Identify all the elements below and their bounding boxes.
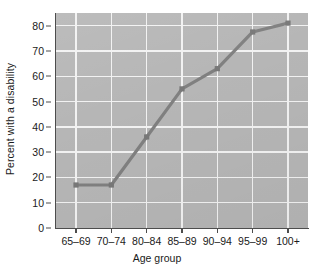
y-tick-label: 10 xyxy=(32,197,44,209)
y-tick-label: 70 xyxy=(32,45,44,57)
y-tick-label: 50 xyxy=(32,96,44,108)
y-axis-spine xyxy=(55,13,56,229)
y-tick-mark xyxy=(46,50,51,51)
x-tick-mark xyxy=(111,228,112,233)
y-tick-label: 20 xyxy=(32,171,44,183)
y-tick-mark xyxy=(46,177,51,178)
x-axis-ticks: 65–6970–7480–8485–8990–9495–99100+ xyxy=(0,228,314,252)
x-tick-mark xyxy=(181,228,182,233)
x-tick-mark xyxy=(75,228,76,233)
x-tick-label: 90–94 xyxy=(203,235,232,247)
data-point-marker xyxy=(285,21,290,26)
y-tick-label: 30 xyxy=(32,146,44,158)
chart-figure: Percent with a disability 01020304050607… xyxy=(0,0,314,274)
x-tick-label: 70–74 xyxy=(97,235,126,247)
data-point-marker xyxy=(73,182,78,187)
data-series-line xyxy=(56,13,308,228)
x-tick-mark xyxy=(252,228,253,233)
x-axis-title: Age group xyxy=(0,252,314,264)
x-tick-label: 95–99 xyxy=(238,235,267,247)
data-point-marker xyxy=(179,86,184,91)
y-tick-label: 60 xyxy=(32,70,44,82)
x-tick-mark xyxy=(146,228,147,233)
x-tick-mark xyxy=(287,228,288,233)
y-tick-label: 40 xyxy=(32,121,44,133)
series-polyline xyxy=(76,23,288,185)
y-axis-title: Percent with a disability xyxy=(0,0,20,238)
y-tick-label: 80 xyxy=(32,20,44,32)
x-tick-label: 100+ xyxy=(276,235,300,247)
x-tick-label: 85–89 xyxy=(167,235,196,247)
data-point-marker xyxy=(250,29,255,34)
x-tick-label: 80–84 xyxy=(132,235,161,247)
x-tick-mark xyxy=(217,228,218,233)
y-tick-mark xyxy=(46,152,51,153)
data-point-marker xyxy=(215,66,220,71)
y-tick-mark xyxy=(46,101,51,102)
y-tick-mark xyxy=(46,202,51,203)
x-tick-label: 65–69 xyxy=(61,235,90,247)
y-tick-mark xyxy=(46,126,51,127)
data-point-marker xyxy=(144,134,149,139)
data-point-marker xyxy=(109,182,114,187)
plot-area xyxy=(56,13,308,228)
y-axis-title-text: Percent with a disability xyxy=(4,63,16,175)
y-tick-mark xyxy=(46,76,51,77)
y-tick-mark xyxy=(46,25,51,26)
